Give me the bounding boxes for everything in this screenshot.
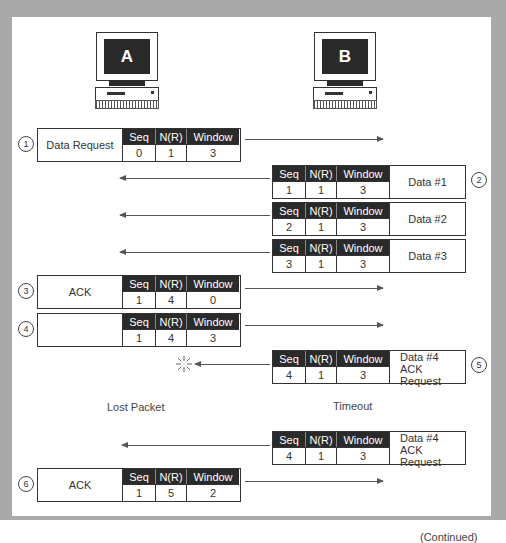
nr-value: 1 <box>306 447 337 464</box>
seq-value: 3 <box>273 255 306 272</box>
computer-a-label: A <box>104 39 150 74</box>
nr-value: 4 <box>156 329 187 346</box>
arrow-left <box>120 252 270 253</box>
seq-value: 1 <box>123 329 156 346</box>
seq-value: 4 <box>273 366 306 383</box>
nr-value: 1 <box>306 366 337 383</box>
timeout-note: Timeout <box>333 400 372 412</box>
window-value: 3 <box>337 255 389 272</box>
packet-data-1: Seq N(R) Window 1 1 3 Data #1 <box>272 165 466 199</box>
seq-value: 1 <box>123 484 156 501</box>
nr-value: 4 <box>156 291 187 308</box>
computer-a-icon: A <box>96 32 158 112</box>
nr-value: 1 <box>156 144 187 161</box>
window-value: 3 <box>337 447 389 464</box>
step-2-marker: 2 <box>471 172 487 188</box>
computer-b-icon: B <box>314 32 376 112</box>
arrow-left-lost <box>195 364 270 365</box>
packet-label: ACK <box>38 276 123 308</box>
packet-label: Data Request <box>38 129 123 161</box>
window-value: 3 <box>187 329 239 346</box>
arrow-right <box>245 325 383 326</box>
window-value: 3 <box>337 366 389 383</box>
system-unit <box>95 87 159 101</box>
arrow-left <box>120 215 270 216</box>
keyboard <box>313 100 377 109</box>
packet-data-3: Seq N(R) Window 3 1 3 Data #3 <box>272 239 466 273</box>
seq-value: 1 <box>123 291 156 308</box>
packet-data-4-retransmit: Seq N(R) Window 4 1 3 Data #4 ACK Reques… <box>272 431 466 465</box>
monitor: B <box>314 32 376 81</box>
window-value: 3 <box>187 144 239 161</box>
monitor: A <box>96 32 158 81</box>
packet-label: Data #4 ACK Request <box>390 351 465 383</box>
continued-note: (Continued) <box>420 531 477 543</box>
lost-packet-burst-icon <box>175 355 193 373</box>
arrow-left <box>120 178 270 179</box>
packet-window-update: Seq N(R) Window 1 4 3 <box>37 313 241 347</box>
packet-label <box>38 314 123 346</box>
window-value: 3 <box>337 181 389 198</box>
packet-data-2: Seq N(R) Window 2 1 3 Data #2 <box>272 202 466 236</box>
computer-b-label: B <box>322 39 368 74</box>
nr-value: 1 <box>306 255 337 272</box>
system-unit <box>313 87 377 101</box>
nr-value: 5 <box>156 484 187 501</box>
keyboard <box>95 100 159 109</box>
arrow-right <box>245 481 383 482</box>
packet-data-4-lost: Seq N(R) Window 4 1 3 Data #4 ACK Reques… <box>272 350 466 384</box>
packet-label: Data #1 <box>390 166 465 198</box>
packet-label: ACK <box>38 469 123 501</box>
lost-packet-note: Lost Packet <box>107 401 164 413</box>
step-3-marker: 3 <box>18 283 34 299</box>
packet-ack-final: ACK Seq N(R) Window 1 5 2 <box>37 468 241 502</box>
step-5-marker: 5 <box>471 357 487 373</box>
step-4-marker: 4 <box>18 321 34 337</box>
arrow-right <box>245 288 383 289</box>
window-value: 0 <box>187 291 239 308</box>
seq-value: 1 <box>273 181 306 198</box>
packet-label: Data #4 ACK Request <box>390 432 465 464</box>
window-value: 3 <box>337 218 389 235</box>
packet-data-request: Data Request Seq N(R) Window 0 1 3 <box>37 128 241 162</box>
seq-value: 4 <box>273 447 306 464</box>
seq-value: 0 <box>123 144 156 161</box>
seq-value: 2 <box>273 218 306 235</box>
arrow-left <box>122 445 270 446</box>
packet-label: Data #2 <box>390 203 465 235</box>
nr-value: 1 <box>306 218 337 235</box>
step-1-marker: 1 <box>18 136 34 152</box>
packet-ack: ACK Seq N(R) Window 1 4 0 <box>37 275 241 309</box>
nr-value: 1 <box>306 181 337 198</box>
step-6-marker: 6 <box>18 476 34 492</box>
arrow-right <box>245 139 383 140</box>
window-value: 2 <box>187 484 239 501</box>
packet-label: Data #3 <box>390 240 465 272</box>
